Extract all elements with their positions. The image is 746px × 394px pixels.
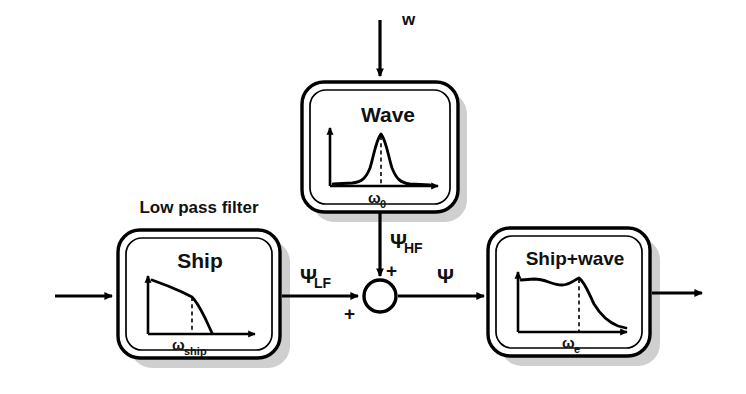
summing-junction-circle: [364, 280, 396, 312]
ship-block[interactable]: Ship ω ship: [118, 230, 280, 358]
ship-block-title: Ship: [177, 249, 223, 272]
sum-plus-left: +: [344, 303, 355, 324]
shipwave-plot-tick-subscript: e: [574, 343, 580, 355]
signal-hf-subscript: HF: [404, 240, 423, 256]
ship-plot-tick-subscript: ship: [184, 345, 207, 357]
sum-plus-top: +: [386, 260, 397, 281]
wave-block[interactable]: Wave ω 0: [302, 82, 458, 212]
signal-out-label: Ψ: [437, 264, 454, 287]
disturbance-input-label: w: [401, 10, 416, 29]
shipwave-block[interactable]: Ship+wave ω e: [488, 228, 650, 356]
summing-junction[interactable]: [364, 280, 396, 312]
diagram-canvas: Ship ω ship Low pass filter Wave ω: [0, 0, 746, 394]
signal-lf-subscript: LF: [314, 275, 332, 291]
block-diagram: Ship ω ship Low pass filter Wave ω: [0, 0, 746, 394]
wave-plot-tick-subscript: 0: [380, 198, 386, 210]
low-pass-filter-caption: Low pass filter: [139, 198, 258, 217]
wave-block-title: Wave: [361, 103, 415, 126]
shipwave-block-title: Ship+wave: [526, 248, 625, 269]
